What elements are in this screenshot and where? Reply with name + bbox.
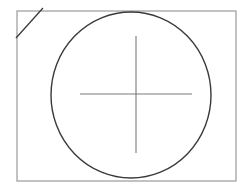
- diagonal-line: [16, 8, 43, 38]
- circle-shape: [51, 12, 211, 178]
- frame-rectangle: [17, 11, 236, 181]
- diagram-canvas: [0, 0, 252, 186]
